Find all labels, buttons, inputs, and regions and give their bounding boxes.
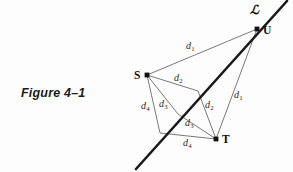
segment-label-subscript: 1 xyxy=(239,94,242,101)
label-d1-right: d1 xyxy=(234,89,242,100)
segment-U-T-d1 xyxy=(216,29,257,139)
point-dot-T xyxy=(214,137,219,142)
segment-label-subscript: 2 xyxy=(210,104,213,111)
label-d4-left: d4 xyxy=(141,100,149,111)
segment-S-v2-d2 xyxy=(147,75,198,91)
segment-label-subscript: 3 xyxy=(190,122,193,129)
figure-page: Figure 4–1 SUT ℒ d1d2d4d3d2d1d3d4 xyxy=(0,0,293,172)
point-label-S: S xyxy=(134,69,140,81)
segment-label-subscript: 1 xyxy=(191,45,194,52)
segment-label-subscript: 2 xyxy=(179,77,182,84)
point-label-U: U xyxy=(263,24,271,36)
line-L-label: ℒ xyxy=(250,2,259,17)
label-d2-upper: d2 xyxy=(174,72,182,83)
segment-group xyxy=(147,29,257,139)
segment-label-subscript: 3 xyxy=(164,103,167,110)
segment-label-subscript: 4 xyxy=(188,142,191,149)
label-d4-lower: d4 xyxy=(183,137,191,148)
point-dot-group xyxy=(145,27,260,142)
point-dot-U xyxy=(255,27,260,32)
label-d3-lower: d3 xyxy=(185,117,193,128)
point-dot-S xyxy=(145,73,150,78)
label-d3-left: d3 xyxy=(159,98,167,109)
point-label-T: T xyxy=(222,133,230,145)
geometry-diagram xyxy=(0,0,293,172)
label-d1-upper: d1 xyxy=(186,40,194,51)
segment-label-subscript: 4 xyxy=(146,105,149,112)
label-d2-right: d2 xyxy=(205,99,213,110)
